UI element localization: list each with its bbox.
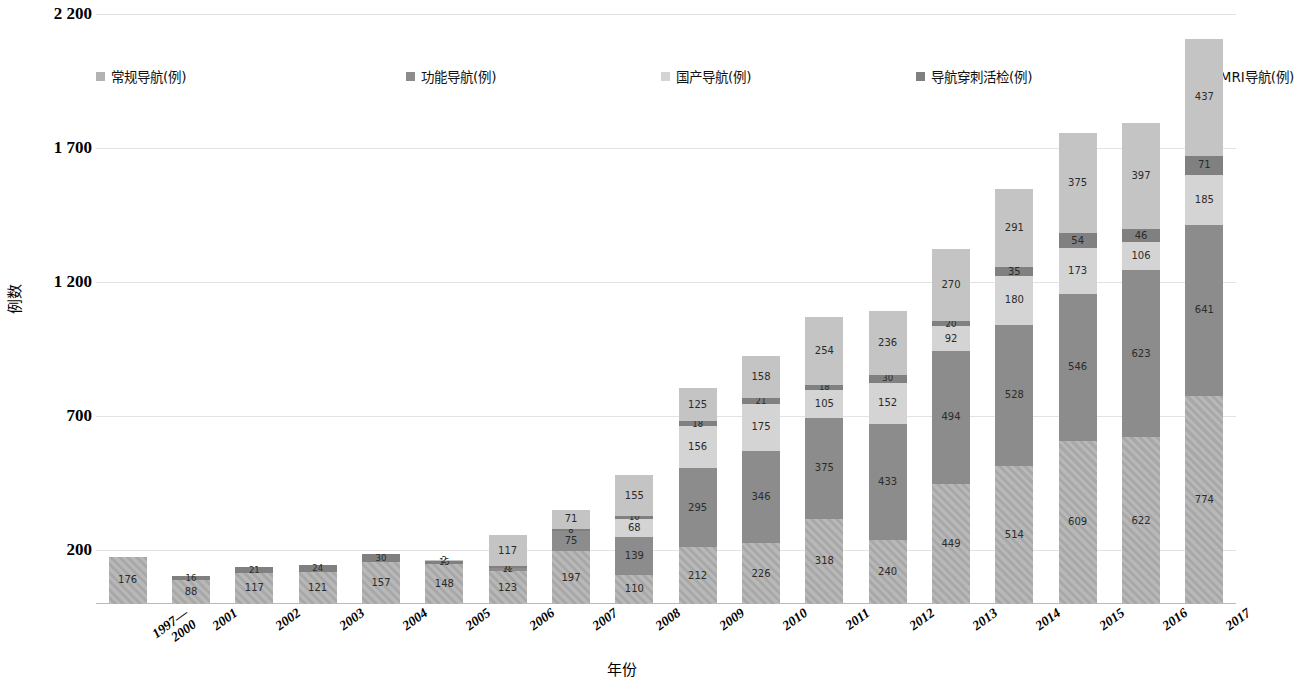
bar-segment[interactable]: 18 bbox=[679, 421, 717, 426]
bar-value-label: 494 bbox=[941, 412, 960, 422]
bar-segment[interactable]: 110 bbox=[615, 575, 653, 605]
bar-column[interactable]: 51452818035291 bbox=[995, 14, 1033, 604]
bar-segment[interactable]: 155 bbox=[615, 475, 653, 517]
bar-segment[interactable]: 528 bbox=[995, 325, 1033, 467]
bar-value-label: 176 bbox=[118, 575, 137, 585]
bar-value-label: 173 bbox=[1068, 266, 1087, 276]
bar-segment[interactable]: 54 bbox=[1059, 233, 1097, 247]
bar-value-label: 623 bbox=[1131, 349, 1150, 359]
bar-column[interactable]: 22634617521158 bbox=[742, 14, 780, 604]
bar-column[interactable]: 77464118571437 bbox=[1185, 14, 1223, 604]
bar-column[interactable]: 148152 bbox=[425, 14, 463, 604]
bar-segment[interactable]: 291 bbox=[995, 189, 1033, 267]
bar-segment[interactable]: 156 bbox=[679, 426, 717, 468]
bar-value-label: 546 bbox=[1068, 362, 1087, 372]
bar-value-label: 71 bbox=[565, 514, 578, 524]
bar-segment[interactable]: 176 bbox=[109, 557, 147, 604]
bar-value-label: 158 bbox=[751, 372, 770, 382]
bar-value-label: 270 bbox=[941, 280, 960, 290]
bar-value-label: 156 bbox=[688, 442, 707, 452]
bar-segment[interactable]: 106 bbox=[1122, 242, 1160, 270]
x-tick-label: 2004 bbox=[400, 606, 430, 633]
bar-segment[interactable]: 774 bbox=[1185, 396, 1223, 604]
bar-segment[interactable]: 105 bbox=[805, 390, 843, 418]
bar-segment[interactable]: 71 bbox=[1185, 156, 1223, 175]
bar-segment[interactable]: 20 bbox=[932, 321, 970, 326]
bar-segment[interactable]: 546 bbox=[1059, 294, 1097, 440]
bar-segment[interactable]: 158 bbox=[742, 356, 780, 398]
bar-segment[interactable]: 117 bbox=[489, 535, 527, 566]
bar-segment[interactable]: 139 bbox=[615, 537, 653, 574]
bar-segment[interactable]: 212 bbox=[679, 547, 717, 604]
bar-segment[interactable]: 623 bbox=[1122, 270, 1160, 437]
bar-segment[interactable]: 88 bbox=[172, 580, 210, 604]
bar-column[interactable]: 31837510518254 bbox=[805, 14, 843, 604]
bar-segment[interactable]: 397 bbox=[1122, 123, 1160, 229]
bar-segment[interactable]: 375 bbox=[1059, 133, 1097, 234]
bar-segment[interactable]: 21 bbox=[742, 398, 780, 404]
bar-segment[interactable]: 10 bbox=[615, 516, 653, 519]
bar-value-label: 157 bbox=[371, 578, 390, 588]
bar-segment[interactable]: 318 bbox=[805, 519, 843, 604]
bar-segment[interactable]: 437 bbox=[1185, 39, 1223, 156]
bar-column[interactable]: 21229515618125 bbox=[679, 14, 717, 604]
bar-segment[interactable]: 185 bbox=[1185, 175, 1223, 225]
bar-segment[interactable]: 30 bbox=[869, 375, 907, 383]
bar-column[interactable]: 15730 bbox=[362, 14, 400, 604]
bar-column[interactable]: 24043315230236 bbox=[869, 14, 907, 604]
bar-segment[interactable]: 92 bbox=[932, 326, 970, 351]
bar-segment[interactable]: 346 bbox=[742, 451, 780, 544]
bar-segment[interactable]: 375 bbox=[805, 418, 843, 519]
bar-segment[interactable]: 117 bbox=[235, 573, 273, 604]
bar-segment[interactable]: 641 bbox=[1185, 225, 1223, 397]
bar-segment[interactable]: 514 bbox=[995, 466, 1033, 604]
bar-column[interactable]: 60954617354375 bbox=[1059, 14, 1097, 604]
bar-segment[interactable]: 6 bbox=[489, 566, 527, 568]
bar-segment[interactable]: 16 bbox=[172, 576, 210, 580]
bar-segment[interactable]: 125 bbox=[679, 388, 717, 422]
bar-segment[interactable]: 71 bbox=[552, 510, 590, 529]
bar-value-label: 24 bbox=[312, 564, 323, 573]
bar-segment[interactable]: 175 bbox=[742, 404, 780, 451]
bar-column[interactable]: 4494949220270 bbox=[932, 14, 970, 604]
bar-segment[interactable]: 270 bbox=[932, 249, 970, 321]
bar-segment[interactable]: 609 bbox=[1059, 441, 1097, 604]
bar-column[interactable]: 62262310646397 bbox=[1122, 14, 1160, 604]
bar-segment[interactable]: 30 bbox=[362, 554, 400, 562]
bar-segment[interactable]: 449 bbox=[932, 484, 970, 604]
bar-segment[interactable]: 197 bbox=[552, 551, 590, 604]
bar-value-label: 774 bbox=[1195, 495, 1214, 505]
bar-column[interactable]: 1101396810155 bbox=[615, 14, 653, 604]
bar-column[interactable]: 19775871 bbox=[552, 14, 590, 604]
bar-segment[interactable]: 226 bbox=[742, 543, 780, 604]
bar-segment[interactable]: 236 bbox=[869, 311, 907, 374]
bar-column[interactable]: 11721 bbox=[235, 14, 273, 604]
bar-segment[interactable]: 46 bbox=[1122, 229, 1160, 241]
bar-column[interactable]: 176 bbox=[109, 14, 147, 604]
bar-segment[interactable]: 157 bbox=[362, 562, 400, 604]
bar-segment[interactable]: 173 bbox=[1059, 248, 1097, 294]
bar-segment[interactable]: 295 bbox=[679, 468, 717, 547]
bar-segment[interactable]: 2 bbox=[425, 560, 463, 561]
bar-value-label: 185 bbox=[1195, 195, 1214, 205]
bar-segment[interactable]: 148 bbox=[425, 564, 463, 604]
bar-segment[interactable]: 21 bbox=[235, 567, 273, 573]
bar-segment[interactable]: 433 bbox=[869, 424, 907, 540]
bar-segment[interactable]: 121 bbox=[299, 572, 337, 604]
bar-segment[interactable]: 622 bbox=[1122, 437, 1160, 604]
bar-column[interactable]: 8816 bbox=[172, 14, 210, 604]
x-tick-label: 2015 bbox=[1097, 606, 1127, 633]
bar-segment[interactable]: 123 bbox=[489, 571, 527, 604]
bar-segment[interactable]: 24 bbox=[299, 565, 337, 571]
bar-segment[interactable]: 8 bbox=[552, 529, 590, 531]
bar-segment[interactable]: 254 bbox=[805, 317, 843, 385]
bar-segment[interactable]: 152 bbox=[869, 383, 907, 424]
bar-segment[interactable]: 18 bbox=[805, 385, 843, 390]
bar-column[interactable]: 123126117 bbox=[489, 14, 527, 604]
bar-segment[interactable]: 240 bbox=[869, 540, 907, 604]
bar-segment[interactable]: 494 bbox=[932, 351, 970, 483]
bar-segment[interactable]: 180 bbox=[995, 276, 1033, 324]
bar-segment[interactable]: 35 bbox=[995, 267, 1033, 276]
bar-column[interactable]: 12124 bbox=[299, 14, 337, 604]
y-tick-label: 2 200 bbox=[12, 4, 92, 24]
